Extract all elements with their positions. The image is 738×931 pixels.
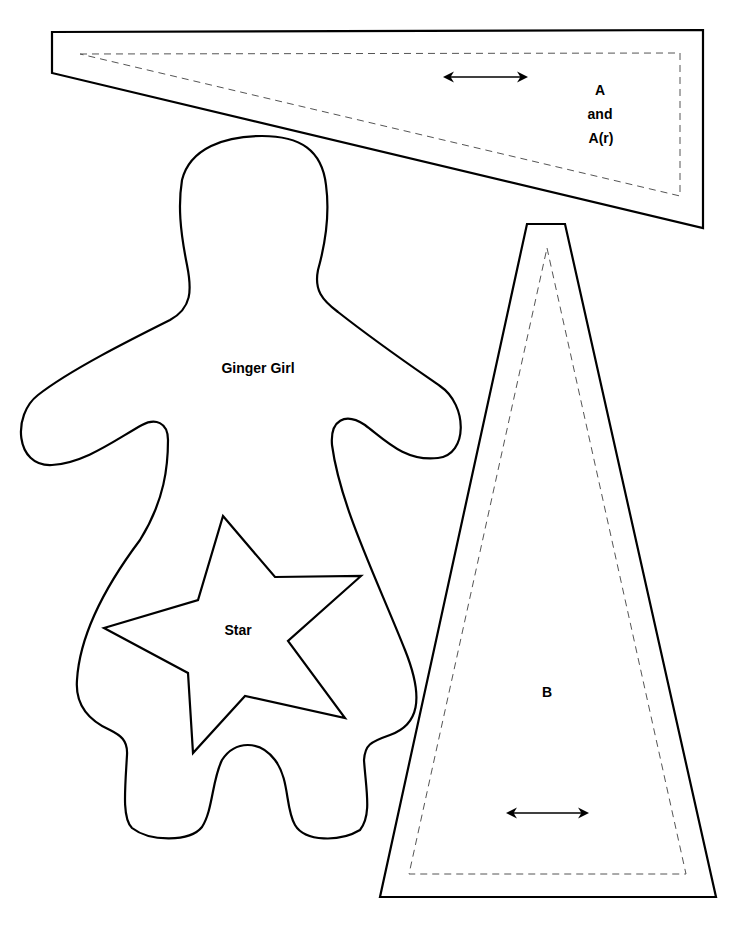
piece-b-seam-line [409,248,686,874]
ginger-girl-label: Ginger Girl [221,360,294,376]
piece-a-cut-line [52,30,703,228]
ginger-girl-outline [21,136,461,838]
piece-a-seam-line [80,53,680,196]
piece-b-cut-line [380,224,716,897]
piece-b-label: B [542,684,552,700]
star-label: Star [224,622,251,638]
pattern-piece-b [380,224,716,897]
piece-a-label-line1: A [595,82,605,98]
piece-a-label-line2: and [588,106,613,122]
pattern-piece-a [52,30,703,228]
piece-a-label-line3: A(r) [589,130,614,146]
